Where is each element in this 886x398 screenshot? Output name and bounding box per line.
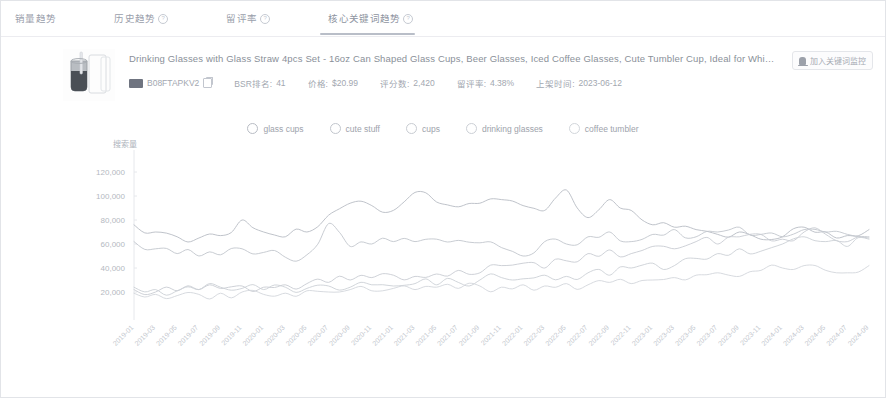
ratings-count-value: 2,420 — [413, 78, 434, 88]
legend-label: coffee tumbler — [585, 124, 639, 134]
series-line-1[interactable] — [134, 223, 869, 261]
product-thumbnail — [63, 49, 115, 101]
listed-date-field: 上架时间: 2023-06-12 — [536, 77, 622, 89]
x-tick-label: 2022-11 — [609, 324, 632, 347]
ratings-count-field: 评分数: 2,420 — [380, 77, 435, 89]
x-tick-label: 2022-05 — [544, 324, 567, 347]
series-line-4[interactable] — [134, 265, 869, 299]
help-icon[interactable] — [403, 14, 413, 24]
x-tick-label: 2019-01 — [112, 324, 135, 347]
tab-label: 核心关键词趋势 — [328, 14, 400, 24]
legend-item-2[interactable]: cups — [406, 123, 440, 134]
bsr-rank-value: 41 — [276, 78, 285, 88]
help-icon[interactable] — [260, 14, 270, 24]
chart-legend: glass cupscute stuffcupsdrinking glasses… — [1, 123, 885, 134]
help-icon[interactable] — [158, 14, 168, 24]
active-tab-underline — [320, 33, 415, 35]
listed-date-value: 2023-06-12 — [579, 78, 622, 88]
chart-canvas: 120,000100,00080,00060,00040,00020,00020… — [1, 138, 886, 363]
x-tick-label: 2024-01 — [760, 324, 783, 347]
x-tick-label: 2019-07 — [176, 324, 199, 347]
legend-item-0[interactable]: glass cups — [247, 123, 303, 134]
legend-item-3[interactable]: drinking glasses — [466, 123, 543, 134]
legend-item-1[interactable]: cute stuff — [330, 123, 380, 134]
app-window: 销量趋势历史趋势留评率核心关键词趋势 Drinking Glasses with… — [0, 0, 886, 398]
legend-marker-icon — [406, 123, 417, 134]
x-tick-label: 2023-09 — [717, 324, 740, 347]
tab-bar: 销量趋势历史趋势留评率核心关键词趋势 — [1, 1, 885, 37]
review-rate-field: 留评率: 4.38% — [457, 77, 514, 89]
bsr-rank-field: BSR排名: 41 — [234, 77, 285, 89]
x-tick-label: 2021-05 — [414, 324, 437, 347]
product-meta-row: B08FTAPKV2 BSR排名: 41 价格: $20.99 评分数: 2,4… — [129, 77, 778, 89]
price-field: 价格: $20.99 — [308, 77, 358, 89]
keyword-trend-chart: 搜索量 120,000100,00080,00060,00040,00020,0… — [1, 138, 885, 363]
x-tick-label: 2020-11 — [350, 324, 373, 347]
tab-1[interactable]: 历史趋势 — [114, 14, 178, 24]
amazon-badge-icon — [129, 79, 143, 88]
legend-label: glass cups — [263, 124, 303, 134]
x-tick-label: 2020-09 — [328, 324, 351, 347]
x-tick-label: 2019-03 — [133, 324, 156, 347]
x-tick-label: 2024-07 — [825, 324, 848, 347]
add-keyword-monitor-label: 加入关键词监控 — [810, 55, 866, 66]
legend-label: cute stuff — [346, 124, 380, 134]
x-tick-label: 2024-03 — [782, 324, 805, 347]
ratings-count-label: 评分数: — [380, 77, 409, 89]
y-tick-label: 120,000 — [96, 168, 125, 177]
tab-0[interactable]: 销量趋势 — [15, 14, 66, 24]
legend-marker-icon — [330, 123, 341, 134]
bell-icon — [799, 57, 806, 65]
tab-3[interactable]: 核心关键词趋势 — [328, 14, 423, 24]
price-value: $20.99 — [332, 78, 358, 88]
x-tick-label: 2023-01 — [630, 324, 653, 347]
y-tick-label: 20,000 — [101, 288, 126, 297]
listed-date-label: 上架时间: — [536, 77, 574, 89]
tab-2[interactable]: 留评率 — [226, 14, 280, 24]
legend-label: drinking glasses — [482, 124, 543, 134]
tab-label: 留评率 — [226, 14, 257, 24]
product-summary-card: Drinking Glasses with Glass Straw 4pcs S… — [1, 37, 885, 101]
y-tick-label: 60,000 — [101, 240, 126, 249]
y-tick-label: 40,000 — [101, 264, 126, 273]
copy-icon[interactable] — [203, 78, 212, 88]
price-label: 价格: — [308, 77, 328, 89]
product-title: Drinking Glasses with Glass Straw 4pcs S… — [129, 53, 778, 64]
x-tick-label: 2021-07 — [436, 324, 459, 347]
asin-field[interactable]: B08FTAPKV2 — [129, 78, 212, 88]
x-tick-label: 2020-01 — [241, 324, 264, 347]
x-tick-label: 2024-09 — [847, 324, 870, 347]
legend-marker-icon — [569, 123, 580, 134]
add-keyword-monitor-button[interactable]: 加入关键词监控 — [792, 51, 873, 70]
legend-item-4[interactable]: coffee tumbler — [569, 123, 639, 134]
x-tick-label: 2020-05 — [285, 324, 308, 347]
y-axis-title: 搜索量 — [113, 138, 137, 149]
review-rate-label: 留评率: — [457, 77, 486, 89]
x-tick-label: 2022-09 — [587, 324, 610, 347]
x-tick-label: 2021-11 — [479, 324, 502, 347]
legend-marker-icon — [247, 123, 258, 134]
x-tick-label: 2023-03 — [652, 324, 675, 347]
x-tick-label: 2022-01 — [501, 324, 524, 347]
x-tick-label: 2019-09 — [198, 324, 221, 347]
x-tick-label: 2023-07 — [695, 324, 718, 347]
y-tick-label: 80,000 — [101, 216, 126, 225]
series-line-2[interactable] — [134, 228, 869, 295]
x-tick-label: 2019-11 — [220, 324, 243, 347]
x-tick-label: 2020-03 — [263, 324, 286, 347]
tab-label: 历史趋势 — [114, 14, 155, 24]
y-tick-label: 100,000 — [96, 192, 125, 201]
x-tick-label: 2022-03 — [522, 324, 545, 347]
x-tick-label: 2019-05 — [155, 324, 178, 347]
legend-marker-icon — [466, 123, 477, 134]
review-rate-value: 4.38% — [490, 78, 514, 88]
legend-label: cups — [422, 124, 440, 134]
x-tick-label: 2023-11 — [739, 324, 762, 347]
bsr-rank-label: BSR排名: — [234, 77, 272, 89]
x-tick-label: 2021-03 — [393, 324, 416, 347]
x-tick-label: 2024-05 — [803, 324, 826, 347]
x-tick-label: 2022-07 — [566, 324, 589, 347]
product-details: Drinking Glasses with Glass Straw 4pcs S… — [129, 49, 778, 89]
asin-value: B08FTAPKV2 — [147, 78, 199, 88]
tab-label: 销量趋势 — [15, 14, 56, 24]
